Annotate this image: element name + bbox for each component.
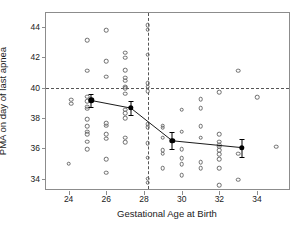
error-bar-cap-upper (240, 139, 245, 140)
x-tick-label-32: 32 (215, 195, 224, 204)
y-tick-label-44: 44 (31, 22, 40, 31)
x-tick-label-30: 30 (177, 195, 186, 204)
y-tick-label-40: 40 (31, 83, 40, 92)
error-bar-cap-upper (128, 101, 133, 102)
plot-area: 343638404244242628303234 (45, 12, 290, 190)
error-bar-cap-lower (170, 149, 175, 150)
x-tick-label-28: 28 (139, 195, 148, 204)
error-bar-cap-lower (89, 107, 94, 108)
error-bar-cap-upper (89, 94, 94, 95)
y-tick-label-36: 36 (31, 144, 40, 153)
error-bar-cap-upper (170, 132, 175, 133)
y-tick-label-34: 34 (31, 175, 40, 184)
x-axis-title: Gestational Age at Birth (117, 208, 217, 219)
scatter-chart: PMA on day of last apnea Gestational Age… (0, 0, 303, 231)
y-tick-label-38: 38 (31, 114, 40, 123)
x-tick-label-24: 24 (64, 195, 73, 204)
error-bar-cap-lower (240, 157, 245, 158)
y-tick-label-42: 42 (31, 53, 40, 62)
x-tick-label-26: 26 (102, 195, 111, 204)
y-axis-title: PMA on day of last apnea (0, 47, 8, 155)
x-tick-label-34: 34 (252, 195, 261, 204)
mean-trend-line (46, 13, 291, 191)
error-bar-cap-lower (128, 115, 133, 116)
